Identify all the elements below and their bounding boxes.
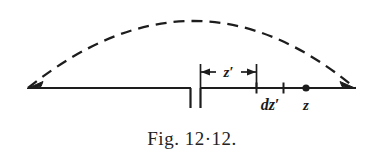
label-z: z <box>302 97 309 113</box>
label-z-prime: z′ <box>222 64 233 80</box>
dimension-arrowhead-right <box>247 69 256 76</box>
dashed-arc-curve <box>28 21 355 88</box>
point-marker-z <box>302 84 309 91</box>
label-dz-prime: dz′ <box>261 96 280 113</box>
dimension-arrowhead-left <box>201 69 210 76</box>
figure-container: z′ dz′ z Fig. 12·12. <box>0 0 384 161</box>
figure-caption: Fig. 12·12. <box>0 128 384 150</box>
